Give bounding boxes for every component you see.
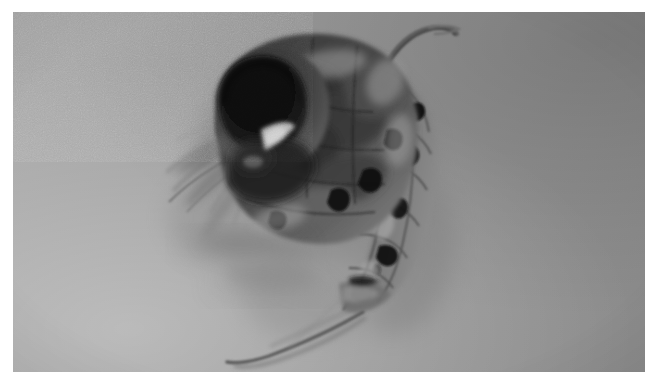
copepod-specimen — [13, 12, 645, 372]
screenshot-root: zooplankton specimen copepod gray-slide-… — [0, 0, 651, 387]
photograph-frame — [13, 12, 645, 372]
